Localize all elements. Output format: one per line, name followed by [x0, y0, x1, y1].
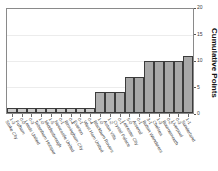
bar-slot [85, 9, 95, 113]
bar-slot [7, 9, 17, 113]
bar [183, 56, 193, 113]
bar [154, 61, 164, 113]
bar [134, 77, 144, 113]
y-tick: 0 [194, 114, 208, 115]
bar [144, 61, 154, 113]
bar-slot [17, 9, 27, 113]
bar [56, 108, 66, 113]
bar-slot [174, 9, 184, 113]
bar-slot [154, 9, 164, 113]
bar-slot [125, 9, 135, 113]
bar-slot [183, 9, 193, 113]
chart-title-fragment [26, 0, 66, 3]
bar-slot [27, 9, 37, 113]
bar [85, 108, 95, 113]
bar-slot [56, 9, 66, 113]
y-tick: 5 [194, 88, 208, 89]
bar [105, 92, 115, 113]
bar [46, 108, 56, 113]
bar [125, 77, 135, 113]
bar-slot [66, 9, 76, 113]
bar-slot [36, 9, 46, 113]
bar-slot [105, 9, 115, 113]
bar-slot [76, 9, 86, 113]
bar-slot [134, 9, 144, 113]
bar-slot [95, 9, 105, 113]
bar [27, 108, 37, 113]
bar-slot [144, 9, 154, 113]
y-axis-title: Cumulative Points [210, 28, 218, 98]
bar-series [7, 9, 193, 113]
x-axis-labels: 1-3Stoke City0-0Fulham0-3Leeds United1-0… [7, 117, 193, 171]
y-axis: 05101520 [194, 8, 208, 115]
bar [164, 61, 174, 113]
bar [95, 92, 105, 113]
bar [17, 108, 27, 113]
x-axis-label: 1-1Sunderland [183, 117, 193, 171]
y-tick: 10 [194, 61, 208, 62]
bar [7, 108, 17, 113]
bar [115, 92, 125, 113]
bar-slot [164, 9, 174, 113]
y-tick: 20 [194, 8, 208, 9]
bar [76, 108, 86, 113]
bar [174, 61, 184, 113]
y-tick: 15 [194, 35, 208, 36]
bar-slot [46, 9, 56, 113]
bar [66, 108, 76, 113]
bar-slot [115, 9, 125, 113]
bar [36, 108, 46, 113]
cumulative-points-chart: 1-3Stoke City0-0Fulham0-3Leeds United1-0… [0, 0, 218, 171]
